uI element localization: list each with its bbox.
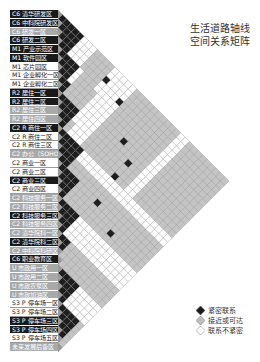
zone-label: C2 R 商住一区 (10, 124, 58, 133)
zone-label: C2 R 商住三区 (10, 141, 58, 150)
zone-label: U 市政用一区 (10, 264, 58, 273)
zone-label: C2 清华院科一区 (10, 229, 58, 238)
zone-label: S3 P 停车场三区 (10, 317, 58, 326)
zone-label: S3 P 停车场五区 (10, 334, 58, 343)
zone-label: C2 科技服务四区 (10, 220, 58, 229)
zone-label: C2 商业三区 (10, 177, 58, 186)
zone-label: C6 研发一区 (10, 28, 58, 37)
zone-label: U 市政农泵区 (10, 282, 58, 291)
zone-label: M1 软件园区 (10, 54, 58, 63)
zone-label: C6 职业教育区 (10, 255, 58, 264)
zone-label: C2 商业二区 (10, 168, 58, 177)
zone-label: C6 清华研发区 (10, 10, 58, 19)
black-diamond-icon (196, 306, 205, 315)
zone-label: R2 居住二区 (10, 98, 58, 107)
legend-label-near: 接近或可达 (208, 315, 243, 325)
zone-label: U 市政加油区 (10, 291, 58, 300)
zone-label: U 市政用二区 (10, 273, 58, 282)
gray-diamond-icon (196, 316, 205, 325)
zone-label: C2 商业四区 (10, 185, 58, 194)
legend-item-loose: 联系不紧密 (196, 325, 243, 335)
zone-label: C2 科技服务一区 (10, 194, 58, 203)
zone-label: C2 科技服务二区 (10, 203, 58, 212)
legend-item-near: 接近或可达 (196, 315, 243, 325)
zone-label: C2 办公（SOHO）区 (10, 150, 58, 159)
zone-label: S3 P 停车场二区 (10, 308, 58, 317)
zone-label: 未来发展后备区 (10, 343, 58, 352)
zone-label: C6 研发二区 (10, 36, 58, 45)
legend: 紧密联系 接近或可达 联系不紧密 (196, 305, 243, 335)
zone-label: C6 中科院研发区 (10, 19, 58, 28)
white-diamond-icon (196, 326, 205, 335)
zone-label: C2 中科院科研区 (10, 247, 58, 256)
zone-label: S3 P 停车场四区 (10, 326, 58, 335)
zone-label: C2 商业一区 (10, 159, 58, 168)
legend-label-loose: 联系不紧密 (208, 325, 243, 335)
legend-label-close: 紧密联系 (208, 305, 236, 315)
zone-label: S3 P 停车场一区 (10, 299, 58, 308)
zone-label: C2 科技服务三区 (10, 212, 58, 221)
zone-label: C2 R 商住二区 (10, 133, 58, 142)
zone-label: C2 清华院科二区 (10, 238, 58, 247)
zone-label: M1 产业示范区 (10, 45, 58, 54)
zone-label: R2 居住四区 (10, 115, 58, 124)
zone-label: M1 芯片园区 (10, 63, 58, 72)
zone-label: M1 企业孵化二区 (10, 80, 58, 89)
zone-label-list: C6 清华研发区C6 中科院研发区C6 研发一区C6 研发二区M1 产业示范区M… (10, 10, 58, 352)
zone-label: M1 企业孵化一区 (10, 71, 58, 80)
zone-label: R2 居住三区 (10, 106, 58, 115)
legend-item-close: 紧密联系 (196, 305, 243, 315)
zone-label: R2 居住一区 (10, 89, 58, 98)
